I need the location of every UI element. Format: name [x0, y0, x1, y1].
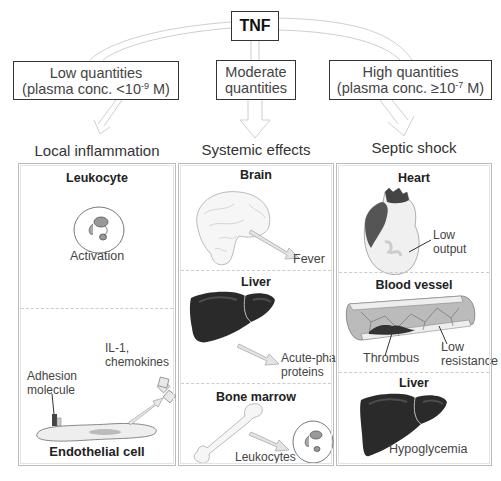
moderate-quantities-box: Moderate quantities	[216, 60, 296, 100]
section-title-liver-septic: Liver	[337, 376, 491, 390]
low-quantities-box: Low quantities (plasma conc. <10-9 M)	[13, 61, 179, 100]
high-quantities-box: High quantities (plasma conc. ≥10-7 M)	[329, 60, 492, 100]
section-title-endothelial-cell: Endothelial cell	[19, 444, 175, 459]
label-activation: Activation	[19, 249, 175, 263]
chemokine-icons-extra	[154, 373, 176, 413]
heading-septic-shock: Septic shock	[336, 139, 492, 156]
high-quantities-line2: (plasma conc. ≥10-7 M)	[330, 80, 491, 96]
label-low: Low	[433, 228, 455, 242]
section-title-blood-vessel: Blood vessel	[337, 278, 491, 292]
liver-icon	[187, 288, 277, 348]
tnf-label: TNF	[239, 17, 270, 34]
tnf-root-box: TNF	[231, 11, 279, 41]
section-divider	[339, 372, 489, 373]
label-leukocytes: Leukocytes	[235, 450, 296, 464]
leukocyte-icon	[289, 418, 335, 466]
panel-local-inflammation: Leukocyte Activation Adhesion molecule I…	[18, 163, 176, 466]
label-low-resistance-2: resistance	[441, 354, 498, 368]
heading-systemic-effects: Systemic effects	[178, 141, 334, 158]
label-hypoglycemia: Hypoglycemia	[389, 442, 468, 456]
label-thrombus: Thrombus	[363, 351, 419, 365]
high-quantities-line1: High quantities	[330, 64, 491, 80]
section-divider	[21, 308, 173, 309]
section-divider	[181, 383, 331, 384]
label-proteins: proteins	[281, 365, 324, 379]
moderate-quantities-line2: quantities	[217, 80, 295, 96]
label-low-resistance-1: Low	[441, 340, 464, 354]
arrow-to-acute-phase	[237, 342, 287, 372]
panel-septic-shock: Heart Low output Blood vessel Thrombus L…	[336, 163, 492, 466]
label-fever: Fever	[293, 252, 325, 266]
section-title-liver: Liver	[179, 275, 333, 289]
adhesion-molecule-icon	[52, 414, 57, 426]
section-title-brain: Brain	[179, 168, 333, 182]
section-divider	[339, 272, 489, 273]
low-quantities-line1: Low quantities	[14, 65, 178, 81]
heading-local-inflammation: Local inflammation	[18, 142, 176, 159]
panel-systemic-effects: Brain Fever Liver Acute-phase proteins B…	[178, 163, 334, 466]
section-title-leukocyte: Leukocyte	[19, 171, 175, 185]
label-il1: IL-1,	[105, 341, 129, 355]
label-output: output	[433, 242, 466, 256]
low-quantities-line2: (plasma conc. <10-9 M)	[14, 81, 178, 97]
section-divider	[181, 270, 331, 271]
moderate-quantities-line1: Moderate	[217, 64, 295, 80]
section-title-heart: Heart	[337, 171, 491, 185]
heart-icon	[355, 186, 435, 281]
